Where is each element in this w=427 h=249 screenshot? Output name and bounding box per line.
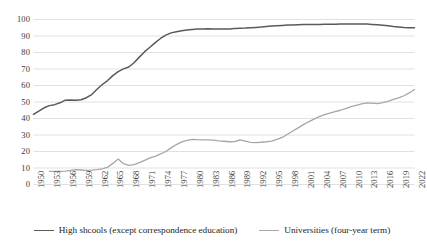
legend-label: High shcools (except correspondence educ… — [59, 226, 238, 235]
x-axis-tick-label: 1962 — [101, 171, 110, 188]
x-axis-tick-label: 2007 — [339, 171, 348, 188]
x-axis-tick-label: 1992 — [259, 171, 268, 188]
x-axis-tick-label: 2001 — [307, 171, 316, 188]
x-axis-tick-label: 1986 — [228, 171, 237, 188]
x-axis-tick-label: 1995 — [275, 171, 284, 188]
x-axis-tick-label: 2022 — [418, 171, 427, 188]
x-axis-tick-label: 1998 — [291, 171, 300, 188]
x-axis-tick-label: 1974 — [164, 171, 173, 188]
x-axis-tick-label: 1953 — [53, 171, 62, 188]
x-axis-tick-label: 1989 — [243, 171, 252, 188]
legend-label: Universities (four-year term) — [284, 226, 390, 235]
x-axis-tick-label: 1950 — [37, 171, 46, 188]
x-axis-tick-label: 1980 — [196, 171, 205, 188]
legend-swatch-icon — [259, 230, 279, 231]
x-axis-tick-label: 1959 — [85, 171, 94, 188]
x-axis-tick-label: 1983 — [212, 171, 221, 188]
x-axis-tick-label: 1968 — [132, 171, 141, 188]
legend-swatch-icon — [34, 230, 54, 231]
x-axis-tick-label: 1977 — [180, 171, 189, 188]
x-axis-tick-label: 1956 — [69, 171, 78, 188]
x-axis-tick-label: 2016 — [386, 171, 395, 188]
x-axis-tick-label: 2004 — [323, 171, 332, 188]
legend: High shcools (except correspondence educ… — [0, 222, 424, 240]
x-axis-tick-label: 1971 — [148, 171, 157, 188]
legend-item-2[interactable]: Universities (four-year term) — [259, 226, 390, 235]
x-axis-tick-label: 1965 — [116, 171, 125, 188]
x-axis-tick-label: 2010 — [355, 171, 364, 188]
x-axis-tick-label: 2013 — [370, 171, 379, 188]
legend-item-1[interactable]: High shcools (except correspondence educ… — [34, 226, 238, 235]
x-axis-tick-label: 2019 — [402, 171, 411, 188]
